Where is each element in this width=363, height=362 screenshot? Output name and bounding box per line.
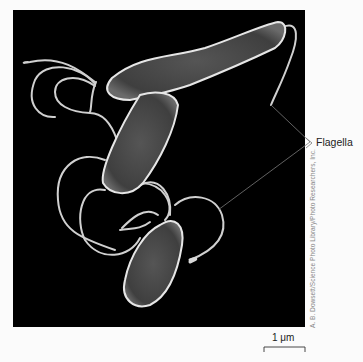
bacterium-diagonal (103, 92, 178, 193)
scale-bar-label: 1 μm (272, 332, 294, 343)
flagella-label: Flagella (316, 136, 353, 148)
photo-credit: A. B. Dowsett/Science Photo Library/Phot… (309, 149, 316, 328)
micrograph-figure: Flagella 1 μm A. B. Dowsett/Science Phot… (0, 0, 363, 362)
scale-bar (264, 347, 305, 352)
bacterium-lower (124, 221, 183, 306)
bacterium-upper (107, 22, 285, 100)
flagella-leader-lines (218, 105, 312, 210)
